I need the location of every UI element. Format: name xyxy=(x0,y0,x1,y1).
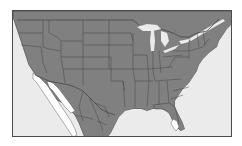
lake-michigan xyxy=(150,31,155,51)
us-map xyxy=(13,11,232,137)
map-frame: Map of the contiguous United States with… xyxy=(12,10,232,137)
